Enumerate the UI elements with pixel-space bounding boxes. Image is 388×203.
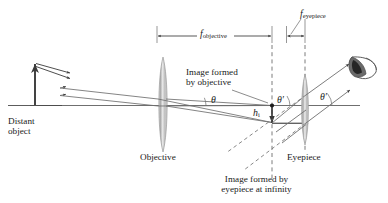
image-infinity-line-2: eyepiece at infinity xyxy=(189,184,324,194)
label-image-at-infinity: Image formed by eyepiece at infinity xyxy=(189,174,324,195)
eye-icon xyxy=(349,57,377,79)
image-label-leader-line xyxy=(232,90,268,103)
label-image-formed-by-objective: Image formed by objective xyxy=(186,67,238,88)
f-objective-subscript: objective xyxy=(203,32,227,39)
label-objective: Objective xyxy=(140,152,176,162)
image-infinity-line-1: Image formed by xyxy=(189,174,324,184)
distant-object-line-1: Distant xyxy=(8,116,35,126)
objective-lens xyxy=(159,57,167,152)
ray-diagram-svg xyxy=(0,0,388,203)
label-distant-object: Distant object xyxy=(8,116,35,137)
f-eyepiece-subscript: eyepiece xyxy=(303,12,326,19)
figure-canvas: fobjective feyepiece Distant object Obje… xyxy=(0,0,388,203)
label-angle-theta-prime-outer: θ′ xyxy=(320,92,327,103)
image-point xyxy=(270,103,274,107)
label-f-objective: fobjective xyxy=(200,29,227,40)
dimension-ticks xyxy=(157,19,305,43)
eyepiece-lens xyxy=(302,74,309,145)
object-source-rays xyxy=(36,64,70,79)
incoming-rays xyxy=(60,87,158,106)
label-angle-theta: θ xyxy=(211,95,216,106)
label-f-eyepiece: feyepiece xyxy=(300,9,326,20)
image-objective-line-2: by objective xyxy=(186,77,238,87)
label-eyepiece: Eyepiece xyxy=(287,152,321,162)
rays-to-eye xyxy=(276,64,350,143)
label-image-height: hi xyxy=(253,108,260,119)
image-objective-line-1: Image formed xyxy=(186,67,238,77)
angle-theta-prime-inner-arc xyxy=(287,96,290,106)
image-height-subscript: i xyxy=(258,111,260,118)
dimension-line-f-eyepiece xyxy=(288,19,305,36)
distant-object-line-2: object xyxy=(8,126,35,136)
label-angle-theta-prime-inner: θ′ xyxy=(277,95,284,106)
